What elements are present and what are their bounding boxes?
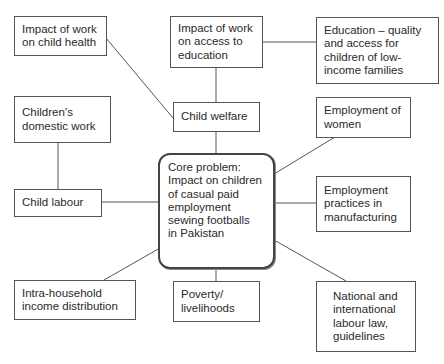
node-impact-child-health: Impact of work on child health (14, 16, 107, 56)
node-intra-household-income: Intra-household income distribution (14, 280, 136, 320)
node-impact-access-education: Impact of work on access to education (170, 16, 263, 68)
node-core-problem: Core problem: Impact on children of casu… (158, 153, 275, 269)
edge-intra-household-core (104, 248, 160, 280)
node-child-labour: Child labour (14, 189, 102, 217)
edge-labour-law-core (274, 240, 346, 281)
edge-women-core (274, 137, 335, 174)
node-poverty-livelihoods: Poverty/ livelihoods (173, 281, 260, 322)
node-child-welfare: Child welfare (173, 102, 260, 132)
node-employment-of-women: Employment of women (316, 97, 411, 138)
node-employment-practices-manufacturing: Employment practices in manufacturing (316, 176, 411, 232)
edge-child-health-welfare (106, 38, 173, 118)
node-childrens-domestic-work: Children’s domestic work (14, 96, 111, 143)
node-labour-law-guidelines: National and international labour law, g… (316, 281, 416, 352)
node-education-quality-access: Education – quality and access for child… (316, 17, 439, 84)
